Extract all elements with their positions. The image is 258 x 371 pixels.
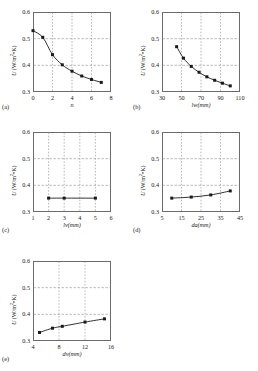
panel-letter-c: (c) bbox=[2, 226, 9, 233]
y-axis-tick-label: 0.6 bbox=[11, 8, 30, 15]
x-axis-tick-label: 8 bbox=[49, 343, 69, 350]
data-point-marker bbox=[41, 36, 44, 39]
x-axis-tick-label: 16 bbox=[101, 343, 121, 350]
data-point-marker bbox=[90, 78, 93, 81]
data-point-marker bbox=[170, 197, 173, 200]
data-point-marker bbox=[63, 197, 66, 200]
x-axis-title: dv(mm) bbox=[33, 350, 111, 357]
data-point-marker bbox=[100, 81, 103, 84]
x-axis-tick-label: 15 bbox=[172, 214, 192, 221]
x-axis-tick-label: 90 bbox=[211, 94, 231, 101]
data-point-marker bbox=[51, 327, 54, 330]
x-axis-tick-label: 2 bbox=[43, 94, 63, 101]
data-point-marker bbox=[229, 84, 232, 87]
data-point-marker bbox=[190, 196, 193, 199]
figure-panel-grid: 0.30.40.50.602468U (W/m2•K)n(a) 0.30.40.… bbox=[0, 0, 258, 371]
y-axis-tick-label: 0.5 bbox=[11, 284, 30, 291]
data-point-marker bbox=[198, 71, 201, 74]
x-axis-tick-label: 8 bbox=[101, 94, 121, 101]
data-point-marker bbox=[175, 45, 178, 48]
chart-panel-c: 0.30.40.50.6123456U (W/m2•K)lv(mm)(c) bbox=[0, 122, 129, 244]
chart-panel-a: 0.30.40.50.602468U (W/m2•K)n(a) bbox=[0, 2, 129, 120]
x-axis-tick-label: 110 bbox=[230, 94, 250, 101]
data-point-marker bbox=[32, 29, 35, 32]
data-point-marker bbox=[71, 70, 74, 73]
panel-letter-a: (a) bbox=[2, 103, 9, 110]
x-axis-tick-label: 12 bbox=[75, 343, 95, 350]
data-series-line bbox=[40, 319, 105, 333]
y-axis-tick-label: 0.5 bbox=[11, 35, 30, 42]
chart-panel-d: 0.30.40.50.6515253545U (W/m2•K)da(mm)(d) bbox=[129, 122, 258, 244]
data-point-marker bbox=[213, 79, 216, 82]
y-axis-title: U (W/m2•K) bbox=[9, 166, 17, 196]
x-axis-title: n bbox=[33, 101, 111, 108]
x-axis-tick-label: 50 bbox=[172, 94, 192, 101]
panel-letter-d: (d) bbox=[133, 226, 140, 233]
y-axis-tick-label: 0.5 bbox=[11, 155, 30, 162]
panel-letter-b: (b) bbox=[133, 103, 140, 110]
gridlines bbox=[34, 133, 111, 212]
x-axis-title: lw(mm) bbox=[162, 101, 240, 108]
data-point-marker bbox=[229, 189, 232, 192]
gridlines bbox=[163, 13, 240, 92]
data-point-marker bbox=[80, 75, 83, 78]
y-axis-tick-label: 0.6 bbox=[140, 8, 159, 15]
y-axis-title: U (W/m2•K) bbox=[9, 46, 17, 76]
data-point-marker bbox=[47, 197, 50, 200]
y-axis-title: U (W/m2•K) bbox=[138, 46, 146, 76]
gridlines bbox=[34, 262, 111, 341]
data-point-marker bbox=[205, 75, 208, 78]
x-axis-tick-label: 6 bbox=[101, 214, 121, 221]
y-axis-tick-label: 0.6 bbox=[11, 257, 30, 264]
y-axis-title: U (W/m2•K) bbox=[138, 166, 146, 196]
data-point-marker bbox=[94, 197, 97, 200]
x-axis-title: da(mm) bbox=[162, 221, 240, 228]
data-point-marker bbox=[103, 317, 106, 320]
y-axis-tick-label: 0.5 bbox=[140, 35, 159, 42]
y-axis-tick-label: 0.6 bbox=[11, 128, 30, 135]
gridlines bbox=[163, 133, 240, 212]
x-axis-tick-label: 45 bbox=[230, 214, 250, 221]
y-axis-tick-label: 0.5 bbox=[140, 155, 159, 162]
x-axis-tick-label: 25 bbox=[191, 214, 211, 221]
chart-panel-b: 0.30.40.50.630507090110U (W/m2•K)lw(mm)(… bbox=[129, 2, 258, 120]
gridlines bbox=[34, 13, 111, 92]
x-axis-tick-label: 35 bbox=[211, 214, 231, 221]
data-point-marker bbox=[38, 331, 41, 334]
data-point-marker bbox=[209, 193, 212, 196]
y-axis-tick-label: 0.6 bbox=[140, 128, 159, 135]
x-axis-tick-label: 4 bbox=[23, 343, 43, 350]
x-axis-tick-label: 5 bbox=[152, 214, 172, 221]
y-axis-title: U (W/m2•K) bbox=[9, 295, 17, 325]
data-point-marker bbox=[182, 57, 185, 60]
x-axis-tick-label: 30 bbox=[152, 94, 172, 101]
data-point-marker bbox=[84, 321, 87, 324]
data-series-line bbox=[177, 47, 231, 86]
chart-panel-e: 0.30.40.50.6481216U (W/m2•K)dv(mm)(e) bbox=[0, 247, 135, 371]
data-point-marker bbox=[51, 53, 54, 56]
data-point-marker bbox=[190, 65, 193, 68]
x-axis-tick-label: 6 bbox=[82, 94, 102, 101]
panel-letter-e: (e) bbox=[2, 355, 9, 362]
x-axis-tick-label: 4 bbox=[62, 94, 82, 101]
x-axis-tick-label: 0 bbox=[23, 94, 43, 101]
data-point-marker bbox=[61, 325, 64, 328]
data-point-marker bbox=[61, 63, 64, 66]
x-axis-tick-label: 70 bbox=[191, 94, 211, 101]
data-point-marker bbox=[221, 82, 224, 85]
x-axis-title: lv(mm) bbox=[33, 221, 111, 228]
